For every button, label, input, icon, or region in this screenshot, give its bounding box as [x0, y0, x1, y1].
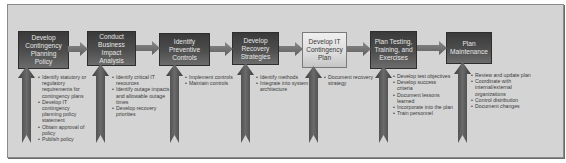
step-tasks-policy: Identify statutory or regulatory require… — [38, 74, 90, 142]
step-title: Develop Contingency Planning Policy — [21, 34, 66, 66]
flow-arrow-right-icon — [417, 41, 447, 55]
flow-arrow-right-icon — [279, 42, 303, 56]
task-item: Identify statutory or regulatory require… — [38, 74, 90, 99]
flow-arrow-right-icon — [210, 42, 233, 56]
step-box-contingency-plan: Develop IT Contingency Plan — [302, 32, 347, 68]
task-item: Publish policy — [38, 136, 90, 142]
task-item: Document changes — [471, 103, 535, 109]
step-box-recovery-strategies: Develop Recovery Strategies — [232, 32, 279, 65]
step-title: Develop Recovery Strategies — [235, 37, 276, 61]
step-box-policy: Develop Contingency Planning Policy — [18, 31, 69, 69]
step-title: Identify Preventive Controls — [162, 38, 207, 62]
flow-arrow-right-icon — [136, 41, 160, 55]
step-tasks-preventive-controls: Implement controls Maintain controls — [185, 74, 237, 86]
step-title: Plan Maintenance — [449, 40, 489, 56]
task-item: Develop recovery priorities — [112, 105, 170, 117]
input-arrow-up-icon — [375, 66, 392, 143]
task-item: Identify outage impacts and allowable ou… — [112, 86, 170, 105]
step-tasks-plan-maintenance: Review and update plan Coordinate with i… — [471, 72, 535, 109]
task-item: Integrate into system architecture — [256, 80, 314, 92]
input-arrow-up-icon — [18, 66, 35, 143]
step-title: Plan Testing, Training, and Exercises — [373, 38, 414, 62]
step-tasks-bia: Identify critical IT resources Identify … — [112, 74, 170, 117]
step-title: Develop IT Contingency Plan — [305, 38, 344, 62]
step-box-preventive-controls: Identify Preventive Controls — [159, 33, 210, 66]
flow-arrow-right-icon — [68, 42, 88, 56]
task-item: Maintain controls — [185, 80, 237, 86]
task-item: Document recovery strategy — [324, 74, 376, 86]
task-item: Coordinate with internal/external organi… — [471, 78, 535, 97]
task-item: Train personnel — [393, 110, 453, 116]
step-box-plan-maintenance: Plan Maintenance — [446, 32, 492, 64]
step-tasks-testing-training: Develop test objectives Develop success … — [393, 73, 453, 116]
task-item: Identify critical IT resources — [112, 74, 170, 86]
step-tasks-recovery-strategies: Identify methods Integrate into system a… — [256, 74, 314, 93]
task-item: Develop success criteria — [393, 79, 453, 91]
input-arrow-up-icon — [92, 64, 109, 143]
flow-arrow-right-icon — [347, 42, 371, 56]
step-tasks-contingency-plan: Document recovery strategy — [324, 74, 376, 86]
step-box-testing-training: Plan Testing, Training, and Exercises — [370, 31, 417, 69]
task-item: Develop IT contingency planning policy s… — [38, 99, 90, 124]
task-item: Document lessons learned — [393, 92, 453, 104]
step-box-bia: Conduct Business Impact Analysis — [87, 31, 136, 66]
step-title: Conduct Business Impact Analysis — [90, 33, 133, 65]
input-arrow-up-icon — [454, 62, 471, 143]
task-item: Obtain approval of policy — [38, 124, 90, 136]
input-arrow-up-icon — [237, 63, 254, 143]
